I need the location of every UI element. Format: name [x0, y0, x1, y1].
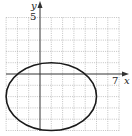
- y-axis-arrow-icon: [38, 1, 43, 8]
- y-tick-label-5: 5: [30, 11, 36, 22]
- x-tick-label-7: 7: [112, 75, 118, 86]
- y-axis-label: y: [30, 0, 37, 11]
- ellipse-graph: y 5 7 x: [0, 0, 132, 136]
- x-axis-label: x: [124, 75, 130, 86]
